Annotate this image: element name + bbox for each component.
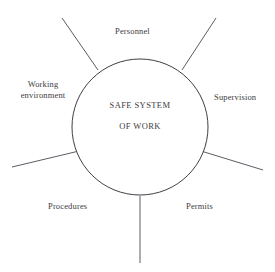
upper-left-spoke-line (62, 18, 98, 70)
lower-right-spoke-line (201, 151, 263, 170)
safe-system-of-work-diagram: SAFE SYSTEM OF WORK Personnel Working en… (0, 0, 275, 272)
central-label-line-1: SAFE SYSTEM (72, 100, 208, 110)
diagram-graphics-layer (0, 0, 275, 272)
spoke-label-working-environment-line-1: Working (28, 79, 59, 89)
spoke-label-personnel: Personnel (115, 26, 150, 37)
spoke-label-working-environment: Working environment (12, 79, 74, 101)
central-label-line-2: OF WORK (72, 121, 208, 131)
lower-left-spoke-line (12, 151, 79, 167)
spoke-label-permits: Permits (186, 201, 213, 212)
spoke-label-procedures: Procedures (48, 201, 87, 212)
spoke-label-working-environment-line-2: environment (21, 90, 66, 100)
upper-right-spoke-line (182, 18, 216, 70)
spoke-label-supervision: Supervision (214, 92, 256, 103)
central-circle-label: SAFE SYSTEM OF WORK (72, 100, 208, 131)
